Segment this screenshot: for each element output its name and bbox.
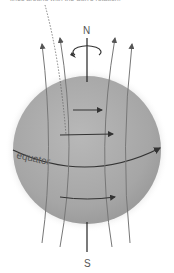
sun-sphere <box>13 76 161 224</box>
north-label: N <box>83 25 90 36</box>
south-label: S <box>84 258 91 269</box>
sun-magnetic-field-diagram: equator N S <box>0 0 174 273</box>
